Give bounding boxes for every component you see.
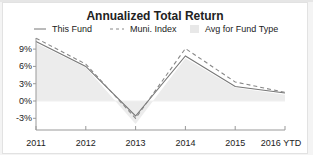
y-tick-label: 9% xyxy=(19,44,32,54)
x-tick-label: 2015 xyxy=(225,138,245,148)
legend-this-fund: This Fund xyxy=(52,24,92,34)
chart-title: Annualized Total Return xyxy=(86,9,223,23)
x-tick-label: 2016 YTD xyxy=(261,138,302,148)
legend: This Fund Muni. Index Avg for Fund Type xyxy=(34,24,278,34)
x-tick-label: 2014 xyxy=(175,138,195,148)
x-axis: 201120122013201420152016 YTD xyxy=(26,126,301,148)
legend-avg-fund-type: Avg for Fund Type xyxy=(205,24,278,34)
line-chart: Annualized Total Return This Fund Muni. … xyxy=(0,0,313,155)
avg-fund-type-area xyxy=(36,43,285,124)
y-tick-label: -3% xyxy=(16,113,32,123)
x-tick-label: 2011 xyxy=(26,138,45,148)
plot-area xyxy=(36,38,285,124)
x-tick-label: 2013 xyxy=(126,138,146,148)
y-axis: 9%6%3%0%-3% xyxy=(16,38,36,130)
x-tick-label: 2012 xyxy=(76,138,96,148)
y-tick-label: 3% xyxy=(19,79,32,89)
legend-area-swatch-icon xyxy=(190,25,199,33)
y-tick-label: 6% xyxy=(19,61,32,71)
y-tick-label: 0% xyxy=(19,96,32,106)
legend-muni-index: Muni. Index xyxy=(130,24,177,34)
